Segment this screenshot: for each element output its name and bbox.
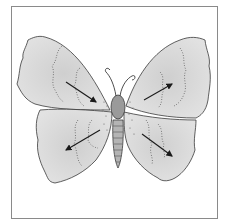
- upper-right-wing: [126, 37, 210, 118]
- butterfly-body: [111, 95, 125, 168]
- antennae: [105, 68, 135, 96]
- lower-right-wing: [124, 112, 196, 181]
- lower-left-wing: [36, 109, 112, 183]
- upper-left-wing: [17, 36, 110, 110]
- butterfly-illustration: [0, 0, 225, 224]
